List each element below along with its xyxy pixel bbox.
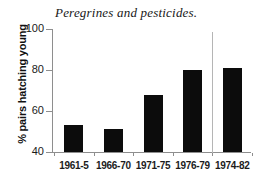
bar-1961-5 <box>64 125 83 152</box>
y-tick-100 <box>46 29 52 30</box>
chart-title: Peregrines and pesticides. <box>55 5 245 21</box>
y-tick-60 <box>46 111 52 112</box>
x-tick-label-1974-82: 1974-82 <box>208 160 256 171</box>
y-tick-40 <box>46 152 52 153</box>
bar-chart-figure: Peregrines and pesticides. % pairs hatch… <box>0 0 258 181</box>
bar-1966-70 <box>104 129 123 152</box>
bar-1974-82 <box>223 68 242 152</box>
x-tick-1 <box>94 153 95 156</box>
x-tick-4 <box>212 153 213 156</box>
group-separator-line <box>212 32 213 153</box>
y-tick-label-100: 100 <box>6 22 44 34</box>
y-axis-line <box>52 29 53 153</box>
bar-1976-79 <box>183 70 202 152</box>
x-tick-0 <box>54 153 55 156</box>
x-axis-line <box>52 152 251 153</box>
x-tick-5 <box>252 153 253 156</box>
y-tick-label-80: 80 <box>6 63 44 75</box>
y-axis-label: % pairs hatching young <box>16 14 28 154</box>
y-tick-label-40: 40 <box>6 145 44 157</box>
bar-1971-75 <box>144 95 163 152</box>
y-tick-80 <box>46 70 52 71</box>
x-tick-3 <box>173 153 174 156</box>
x-tick-2 <box>133 153 134 156</box>
y-tick-label-60: 60 <box>6 104 44 116</box>
